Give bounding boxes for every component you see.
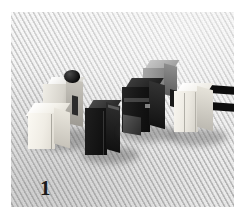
object-1-cube-seam bbox=[51, 114, 52, 149]
object-1-cube-side bbox=[54, 108, 70, 149]
object-3-lower-flange bbox=[123, 114, 141, 135]
object-4-seam-left bbox=[184, 93, 185, 132]
object-1-dark-cap bbox=[64, 70, 80, 83]
object-3-body-band bbox=[124, 98, 149, 102]
object-3-body-side bbox=[149, 81, 165, 130]
object-3-contact-highlight bbox=[145, 104, 150, 108]
object-white-block-with-two-black-bars bbox=[166, 70, 234, 150]
object-4-seam-right bbox=[195, 92, 196, 132]
object-4-block-side bbox=[197, 86, 213, 132]
figure-page: 1 bbox=[0, 0, 244, 219]
object-1-slot bbox=[72, 95, 78, 115]
figure-number: 1 bbox=[40, 178, 51, 199]
object-2-seam bbox=[103, 111, 104, 155]
photograph: 1 bbox=[11, 12, 234, 207]
